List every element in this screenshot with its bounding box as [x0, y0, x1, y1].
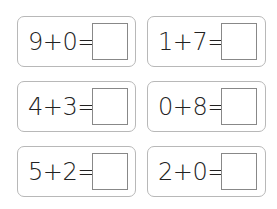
problem-card: 9+0=	[17, 16, 136, 67]
answer-box[interactable]	[221, 153, 257, 190]
answer-box[interactable]	[92, 88, 128, 125]
answer-box[interactable]	[92, 23, 128, 60]
problem-card: 1+7=	[147, 16, 266, 67]
equation-text: 9+0=	[28, 26, 97, 58]
answer-box[interactable]	[221, 88, 257, 125]
answer-box[interactable]	[221, 23, 257, 60]
equation-text: 2+0=	[158, 156, 227, 188]
answer-box[interactable]	[92, 153, 128, 190]
equation-text: 4+3=	[28, 91, 97, 123]
equation-text: 0+8=	[158, 91, 227, 123]
problem-card: 4+3=	[17, 81, 136, 132]
equation-text: 1+7=	[158, 26, 227, 58]
equation-text: 5+2=	[28, 156, 97, 188]
problem-card: 2+0=	[147, 146, 266, 197]
problem-card: 0+8=	[147, 81, 266, 132]
problem-card: 5+2=	[17, 146, 136, 197]
